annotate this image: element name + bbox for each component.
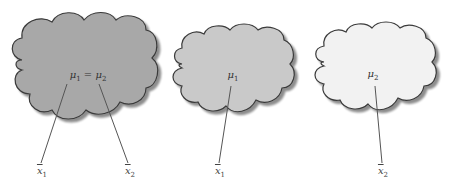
subscript: 2 xyxy=(131,171,135,179)
subscript: 2 xyxy=(102,75,106,83)
cloud-combined-population xyxy=(12,13,157,120)
label-mu1-equals-mu2: μ1 = μ2 xyxy=(70,69,107,83)
label-xbar1-middle: x1 xyxy=(215,165,225,179)
label-xbar2-right: x2 xyxy=(378,165,388,179)
equals-sign: = xyxy=(81,69,96,80)
subscript: 2 xyxy=(374,74,378,82)
label-mu1: μ1 xyxy=(228,69,239,83)
subscript: 2 xyxy=(384,171,388,179)
subscript: 1 xyxy=(43,171,47,179)
diagram-canvas xyxy=(0,0,452,189)
cloud-population-1 xyxy=(173,24,294,112)
label-mu2: μ2 xyxy=(368,68,379,82)
label-xbar1-left: x1 xyxy=(37,165,47,179)
subscript: 1 xyxy=(234,75,238,83)
subscript: 1 xyxy=(221,171,225,179)
label-xbar2-left: x2 xyxy=(125,165,135,179)
